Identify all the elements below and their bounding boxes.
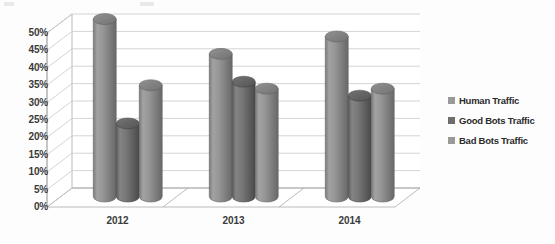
bar-2012-good-bots-traffic xyxy=(116,118,139,202)
y-axis: 0%5%10%15%20%25%30%35%40%45%50% xyxy=(0,0,48,244)
y-axis-tick-label: 35% xyxy=(4,80,48,90)
chart-container: 0%5%10%15%20%25%30%35%40%45%50% 20122013… xyxy=(0,0,555,244)
y-axis-tick-label: 5% xyxy=(4,185,48,195)
bar-2012-bad-bots-traffic xyxy=(139,80,162,202)
bar-2013-human-traffic xyxy=(209,48,232,202)
y-axis-tick-label: 15% xyxy=(4,150,48,160)
y-axis-tick-label: 20% xyxy=(4,132,48,142)
legend-item[interactable]: Human Traffic xyxy=(448,95,554,106)
bar-2013-good-bots-traffic xyxy=(232,76,255,202)
x-axis-tick-label: 2013 xyxy=(199,215,269,226)
legend-label: Good Bots Traffic xyxy=(459,115,534,126)
bar-2014-good-bots-traffic xyxy=(348,90,371,202)
y-axis-tick-label: 30% xyxy=(4,98,48,108)
y-axis-tick-label: 50% xyxy=(4,28,48,38)
bar-2014-human-traffic xyxy=(325,31,348,202)
y-axis-tick-label: 25% xyxy=(4,115,48,125)
y-axis-tick-label: 0% xyxy=(4,202,48,212)
bar-2013-bad-bots-traffic xyxy=(255,83,278,202)
y-axis-tick-label: 10% xyxy=(4,167,48,177)
chart-legend: Human TrafficGood Bots TrafficBad Bots T… xyxy=(448,95,554,155)
y-axis-tick-label: 45% xyxy=(4,45,48,55)
legend-swatch-icon xyxy=(448,117,455,124)
legend-item[interactable]: Bad Bots Traffic xyxy=(448,135,554,146)
legend-label: Human Traffic xyxy=(459,95,519,106)
y-axis-tick-label: 40% xyxy=(4,63,48,73)
x-axis-tick-label: 2012 xyxy=(83,215,153,226)
x-axis-tick-label: 2014 xyxy=(315,215,385,226)
bar-2012-human-traffic xyxy=(93,14,116,202)
legend-swatch-icon xyxy=(448,97,455,104)
legend-swatch-icon xyxy=(448,137,455,144)
bar-2014-bad-bots-traffic xyxy=(371,83,394,202)
legend-item[interactable]: Good Bots Traffic xyxy=(448,115,554,126)
legend-label: Bad Bots Traffic xyxy=(459,135,528,146)
